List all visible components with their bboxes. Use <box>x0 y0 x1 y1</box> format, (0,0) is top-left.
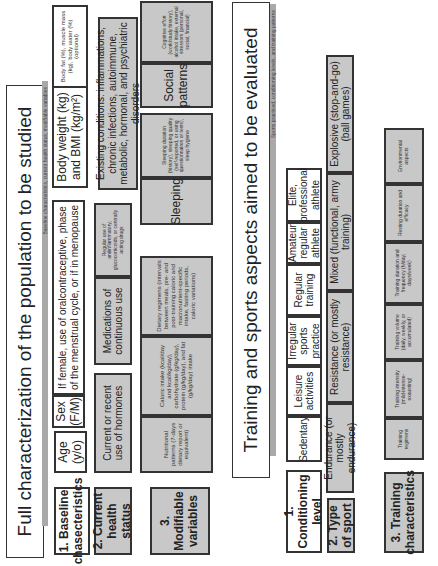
health-label: 2. Current health status <box>94 487 132 555</box>
sex-cell: Sex (F/M) <box>52 395 85 428</box>
sport-label: 2. Type of sport <box>327 498 355 553</box>
volume-cell: Training volume (daily, weekly, or accum… <box>384 304 424 360</box>
elite-cell: Elite, professional athlete <box>286 168 322 222</box>
resistance-cell: Resistance (or mostly resistance) <box>326 291 354 403</box>
social-cell: Social patterns <box>140 63 213 108</box>
section1-bar: Baseline characteristics, current health… <box>42 81 48 526</box>
training-label: 3. Training characteristics <box>384 472 424 553</box>
diagram: Full characterization of the population … <box>0 0 438 566</box>
weight-cell: Body weight (kg) and BMI (kg/m²) <box>52 86 88 188</box>
bodyfat-cell: Body fat (%), muscle mass (kg), body wat… <box>52 5 88 88</box>
irregular-cell: Irregular sports practice <box>286 316 322 366</box>
section2-title: Training and sports aspects aimed to be … <box>232 2 270 478</box>
hormones-cell: Current or recent use of hormones <box>94 373 132 473</box>
antiinflam-cell: Regular use of antiinflammatory, glucoco… <box>94 203 132 277</box>
age-cell: Age (y/o) <box>54 431 87 473</box>
sedentary-cell: Sedentary <box>286 416 322 462</box>
sleeping-detail-cell: Sleeping duration (history), sleeping qu… <box>140 113 213 178</box>
explosive-cell: Explosive (stop-and-go) (ball games) <box>326 55 354 173</box>
regimens-cell: Training regimens <box>384 418 424 460</box>
intensity-cell: Training intensity (mild-intense-exausti… <box>384 360 424 418</box>
female-cell: If female, use of oralcontraceptive, pha… <box>52 200 85 395</box>
amateur-cell: Amateur regular athlete <box>286 222 322 264</box>
conditions-cell: Existing conditions: inflammations, chro… <box>98 17 138 190</box>
leisure-cell: Leisure activities <box>286 366 322 416</box>
nutritional-cell: Nutritional patterns (7-days dietary rep… <box>140 416 213 473</box>
caloric-cell: Caloric intake (kcal/day and kcal/kg/day… <box>140 336 213 416</box>
baseline-label: 1. Baseline chasecteristics <box>54 487 90 555</box>
conditioning-label: 1. Conditioning level <box>286 470 322 553</box>
duration-cell: Training duration and frequency (h/day; … <box>384 242 424 304</box>
modifiable-label: 3. Modifiable variables <box>150 487 210 555</box>
environmental-cell: Environmental aspects <box>384 128 424 184</box>
resting-cell: Resting duration and efficacy <box>384 184 424 242</box>
endurance-cell: Endurance (or mostly endurance) <box>326 403 354 493</box>
mixed-cell: Mixed (functional, army training) <box>326 173 354 291</box>
medications-cell: Medications of continuous use <box>94 277 132 365</box>
section2-bar: Sports practiced, conditioning levels, a… <box>270 4 276 456</box>
social-detail-cell: Cognitive effort (work/study history), a… <box>140 1 213 63</box>
dietary-cell: Dietary regimens (intervals between meal… <box>140 256 213 336</box>
regular-cell: Regular training <box>286 264 322 316</box>
section1-title: Full characterization of the population … <box>6 85 44 558</box>
sleeping-cell: Sleeping <box>140 178 213 225</box>
